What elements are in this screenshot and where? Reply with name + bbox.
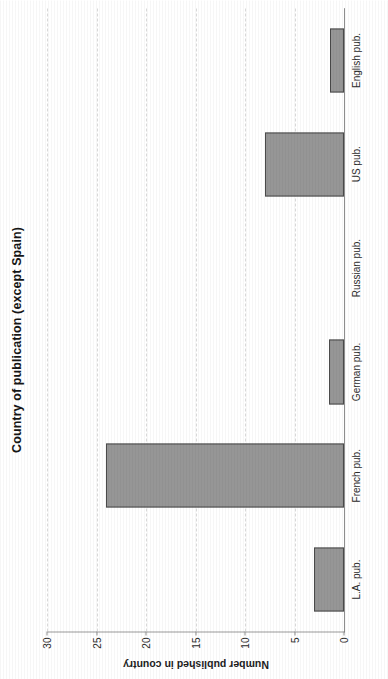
category-axis-label: French pub.	[351, 449, 362, 502]
bar[interactable]	[106, 443, 344, 507]
value-axis-tick-label: 30	[42, 637, 53, 648]
value-axis-tick-mark	[245, 631, 246, 635]
gridline	[344, 8, 345, 631]
scanned-page: Country of publication (except Spain) Nu…	[0, 0, 388, 679]
value-axis-tick-label: 20	[141, 637, 152, 648]
value-axis-tick-mark	[146, 631, 147, 635]
category-axis-label: L.A. pub.	[351, 559, 362, 599]
plot-area: 051015202530L.A. pub.French pub.German p…	[47, 8, 345, 632]
value-axis-tick-label: 0	[339, 637, 350, 643]
value-axis-tick-mark	[195, 631, 196, 635]
bar-chart-figure: Country of publication (except Spain) Nu…	[0, 0, 388, 679]
bar[interactable]	[329, 339, 344, 403]
bar[interactable]	[330, 28, 344, 92]
category-axis-label: German pub.	[351, 342, 362, 400]
category-band: German pub.	[47, 320, 344, 424]
category-band: US pub.	[47, 112, 344, 216]
chart-title: Country of publication (except Spain)	[10, 0, 24, 679]
value-axis-tick-mark	[344, 631, 345, 635]
bar[interactable]	[314, 547, 344, 611]
category-axis-label: Russian pub.	[351, 238, 362, 296]
bar[interactable]	[265, 132, 344, 196]
value-axis-tick-mark	[294, 631, 295, 635]
category-axis-label: English pub.	[351, 32, 362, 87]
category-band: French pub.	[47, 423, 344, 527]
rotated-figure-container: Country of publication (except Spain) Nu…	[0, 0, 388, 679]
value-axis-tick-label: 25	[91, 637, 102, 648]
value-axis-title-label: Number published in country	[123, 658, 269, 670]
value-axis-title: Number published in country	[47, 657, 345, 671]
category-axis-label: US pub.	[351, 146, 362, 182]
value-axis-tick-mark	[47, 631, 48, 635]
value-axis-tick-label: 15	[190, 637, 201, 648]
value-axis-tick-mark	[96, 631, 97, 635]
value-axis-tick-label: 10	[240, 637, 251, 648]
category-band: L.A. pub.	[47, 527, 344, 631]
category-band: English pub.	[47, 8, 344, 112]
value-axis-tick-label: 5	[289, 637, 300, 643]
category-band: Russian pub.	[47, 216, 344, 320]
